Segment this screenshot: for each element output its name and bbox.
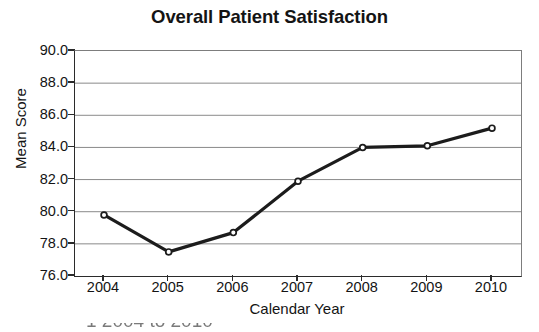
y-axis-tick-label: 80.0 — [0, 203, 68, 218]
data-point-marker — [424, 143, 430, 149]
x-axis-tick-mark — [232, 275, 233, 281]
x-axis-tick-label: 2005 — [152, 279, 184, 295]
x-axis-tick-mark — [296, 275, 297, 281]
x-axis-tick-mark — [426, 275, 427, 281]
x-axis-tick-mark — [490, 275, 491, 281]
x-axis-tick-mark — [361, 275, 362, 281]
x-axis-tick-labels: 2004200520062007200820092010 — [0, 279, 539, 299]
plot-svg — [75, 51, 521, 276]
plot-area — [74, 50, 522, 277]
y-axis-tick-label: 82.0 — [0, 171, 68, 186]
data-point-marker — [489, 125, 495, 131]
x-axis-tick-label: 2008 — [346, 279, 378, 295]
x-axis-tick-label: 2009 — [410, 279, 442, 295]
x-axis-tick-mark — [167, 275, 168, 281]
x-axis-title: Calendar Year — [74, 300, 520, 317]
data-point-marker — [230, 230, 236, 236]
y-axis-tick-label: 90.0 — [0, 43, 68, 58]
x-axis-tick-mark — [102, 275, 103, 281]
chart-title: Overall Patient Satisfaction — [0, 6, 539, 28]
x-axis-tick-label: 2004 — [87, 279, 119, 295]
y-axis-tick-label: 88.0 — [0, 75, 68, 90]
chart-container: Overall Patient Satisfaction Mean Score … — [0, 0, 539, 332]
data-point-marker — [295, 178, 301, 184]
data-point-marker — [101, 212, 107, 218]
cropped-footer-label: 1 2004 to 2010 — [86, 323, 213, 332]
y-axis-tick-label: 78.0 — [0, 236, 68, 251]
y-axis-tick-label: 86.0 — [0, 107, 68, 122]
data-line-mean-score — [104, 128, 492, 252]
data-point-marker — [166, 249, 172, 255]
data-point-marker — [360, 145, 366, 151]
x-axis-tick-label: 2006 — [216, 279, 248, 295]
x-axis-tick-label: 2007 — [281, 279, 313, 295]
x-axis-tick-label: 2010 — [475, 279, 507, 295]
cropped-footer-text: 1 2004 to 2010 — [0, 323, 539, 332]
y-axis-tick-label: 84.0 — [0, 139, 68, 154]
